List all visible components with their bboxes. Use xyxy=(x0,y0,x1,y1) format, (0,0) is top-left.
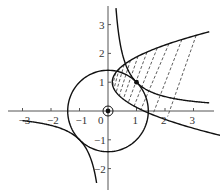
y-tick-label: −1 xyxy=(94,134,106,146)
x-tick-label: 1 xyxy=(133,114,139,126)
parabola-curve xyxy=(112,32,220,136)
origin-point xyxy=(106,109,111,114)
x-tick-label: −1 xyxy=(76,114,88,126)
coordinate-plot: −3−2−1123321−1−20 xyxy=(0,0,220,195)
x-tick-label: −3 xyxy=(19,114,31,126)
y-tick-label: −2 xyxy=(94,163,106,175)
hatch-line xyxy=(119,60,130,95)
x-tick-label: 3 xyxy=(190,114,196,126)
curves xyxy=(23,8,221,183)
y-tick-label: 2 xyxy=(99,47,105,59)
hatch-line xyxy=(153,40,182,114)
intersection-point xyxy=(134,80,139,85)
origin-label: 0 xyxy=(98,114,104,126)
y-tick-label: 3 xyxy=(99,19,105,31)
hatch-line xyxy=(168,35,197,116)
y-tick-label: 1 xyxy=(99,76,105,88)
hatched-region xyxy=(113,35,196,116)
axes xyxy=(8,6,214,190)
hyperbola-branch-q3 xyxy=(23,121,97,183)
